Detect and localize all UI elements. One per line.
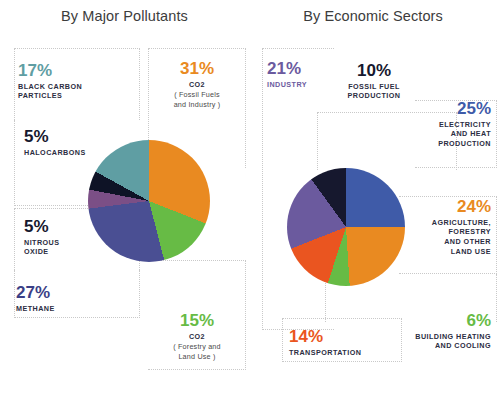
label-black-carbon-percent: 17% xyxy=(18,62,136,80)
label-nitrous-oxide-percent: 5% xyxy=(24,218,142,236)
label-co2-forestry-percent: 15% xyxy=(152,312,242,330)
label-halocarbons-percent: 5% xyxy=(24,128,142,146)
label-black-carbon-particles: 17% BLACK CARBON PARTICLES xyxy=(18,62,136,101)
label-electricity-heat-caption: ELECTRICITY AND HEAT PRODUCTION xyxy=(417,120,491,149)
label-halocarbons: 5% HALOCARBONS xyxy=(24,128,142,157)
label-methane-percent: 27% xyxy=(16,284,134,302)
label-electricity-heat-percent: 25% xyxy=(417,100,491,118)
label-co2-forestry-subcaption: ( Forestry and Land Use ) xyxy=(152,342,242,361)
label-fossil-fuel-production-caption: FOSSIL FUEL PRODUCTION xyxy=(331,82,417,101)
label-co2-forestry-caption: CO2 xyxy=(152,332,242,342)
chart-panel-economic-sectors: By Economic Sectors 21% INDUSTRY 10% FOS… xyxy=(249,0,497,402)
chart-title-economic-sectors: By Economic Sectors xyxy=(249,8,497,24)
label-co2-forestry: 15% CO2 ( Forestry and Land Use ) xyxy=(152,312,242,362)
label-agriculture-percent: 24% xyxy=(401,198,491,216)
chart-panel-major-pollutants: By Major Pollutants 17% BLACK CARBON PAR… xyxy=(0,0,249,402)
label-co2-fossil-percent: 31% xyxy=(152,60,242,78)
label-nitrous-oxide: 5% NITROUS OXIDE xyxy=(24,218,142,257)
label-agriculture-caption: AGRICULTURE, FORESTRY AND OTHER LAND USE xyxy=(401,218,491,256)
label-methane: 27% METHANE xyxy=(16,284,134,313)
label-co2-fossil-fuels: 31% CO2 ( Fossil Fuels and Industry ) xyxy=(152,60,242,110)
label-transportation-percent: 14% xyxy=(289,328,401,346)
pie-chart-economic-sectors xyxy=(287,168,405,286)
label-electricity-heat-production: 25% ELECTRICITY AND HEAT PRODUCTION xyxy=(417,100,491,149)
label-methane-caption: METHANE xyxy=(16,304,134,314)
label-halocarbons-caption: HALOCARBONS xyxy=(24,148,142,158)
label-fossil-fuel-production: 10% FOSSIL FUEL PRODUCTION xyxy=(331,62,417,101)
label-co2-fossil-caption: CO2 xyxy=(152,80,242,90)
label-fossil-fuel-production-percent: 10% xyxy=(331,62,417,80)
label-transportation-caption: TRANSPORTATION xyxy=(289,348,401,358)
label-transportation: 14% TRANSPORTATION xyxy=(289,328,401,357)
label-co2-fossil-subcaption: ( Fossil Fuels and Industry ) xyxy=(152,90,242,109)
label-nitrous-oxide-caption: NITROUS OXIDE xyxy=(24,238,142,257)
chart-title-major-pollutants: By Major Pollutants xyxy=(0,8,249,24)
label-agriculture-forestry: 24% AGRICULTURE, FORESTRY AND OTHER LAND… xyxy=(401,198,491,256)
label-black-carbon-caption: BLACK CARBON PARTICLES xyxy=(18,82,136,101)
